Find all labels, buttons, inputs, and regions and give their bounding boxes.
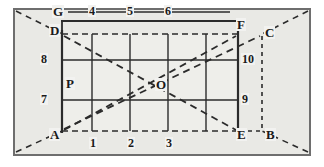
point-label-O: O: [155, 78, 167, 91]
bottom-axis-label-1: 1: [89, 137, 97, 149]
top-axis-label-6: 6: [164, 5, 172, 17]
point-label-G: G: [52, 5, 64, 18]
left-axis-label-7: 7: [40, 93, 48, 105]
point-label-D: D: [49, 24, 60, 37]
point-label-C: C: [264, 26, 275, 39]
geometry-figure: G D F C A E B O P 4 5 6 1 2 3 8 7 10 9: [0, 0, 324, 167]
point-label-A: A: [49, 128, 60, 141]
bottom-axis-label-2: 2: [127, 137, 135, 149]
right-axis-label-9: 9: [241, 93, 249, 105]
point-label-B: B: [265, 128, 276, 141]
region-label-P: P: [65, 77, 75, 90]
right-axis-label-10: 10: [241, 53, 255, 65]
top-axis-label-5: 5: [126, 5, 134, 17]
point-label-F: F: [236, 18, 246, 31]
top-axis-label-4: 4: [88, 5, 96, 17]
left-axis-label-8: 8: [40, 53, 48, 65]
bottom-axis-label-3: 3: [165, 137, 173, 149]
point-label-E: E: [236, 128, 247, 141]
